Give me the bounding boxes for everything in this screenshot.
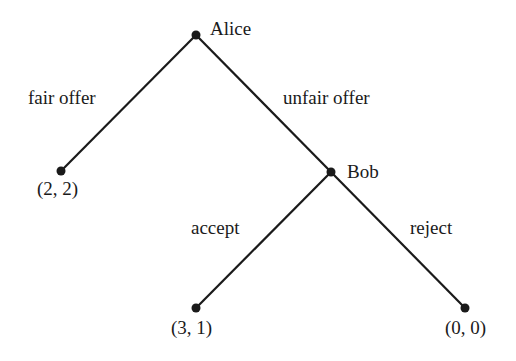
node-label-bob: Bob <box>347 162 379 181</box>
edge-label-reject: reject <box>410 218 452 237</box>
edge-label-unfair-offer: unfair offer <box>283 88 370 107</box>
payoff-fair: (2, 2) <box>37 179 78 198</box>
edge-label-accept: accept <box>191 218 240 237</box>
edge-label-fair-offer: fair offer <box>28 88 96 107</box>
node-alice <box>192 31 201 40</box>
node-bob <box>327 168 336 177</box>
edge-reject <box>331 172 465 308</box>
leaf-fair <box>57 167 66 176</box>
node-label-alice: Alice <box>210 19 251 38</box>
leaf-accept <box>192 304 201 313</box>
game-tree-diagram: Alice Bob (2, 2) (3, 1) (0, 0) fair offe… <box>0 0 516 361</box>
payoff-reject: (0, 0) <box>445 318 486 337</box>
edge-accept <box>196 172 331 308</box>
leaf-reject <box>461 304 470 313</box>
payoff-accept: (3, 1) <box>171 318 212 337</box>
